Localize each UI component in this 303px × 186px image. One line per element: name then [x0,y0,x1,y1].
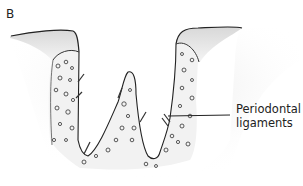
panel-label: B [6,7,14,21]
socket-diagram [0,0,303,186]
callout-line-1: Periodontal [236,102,301,116]
periodontal-ligaments-label: Periodontal ligaments [236,102,301,130]
callout-line-2: ligaments [236,116,301,130]
